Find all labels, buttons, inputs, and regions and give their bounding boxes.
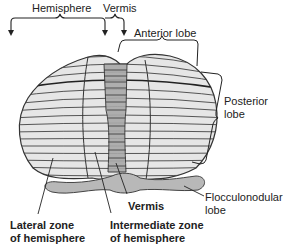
label-hemisphere: Hemisphere — [32, 2, 91, 15]
label-flocculonodular-line2: lobe — [205, 204, 226, 217]
label-flocculonodular-line1: Flocculonodular — [205, 191, 283, 204]
label-vermis-top: Vermis — [103, 2, 137, 15]
label-lateral-zone-line2: of hemisphere — [10, 232, 85, 245]
label-intermediate-zone-line2: of hemisphere — [110, 232, 185, 245]
label-vermis-bottom: Vermis — [128, 200, 164, 213]
label-posterior-lobe-line2: lobe — [224, 108, 245, 121]
label-anterior-lobe: Anterior lobe — [134, 27, 196, 40]
arrow-heads — [8, 30, 127, 36]
top-brackets — [11, 14, 124, 30]
label-posterior-lobe-line1: Posterior — [224, 95, 268, 108]
label-intermediate-zone-line1: Intermediate zone — [110, 219, 204, 232]
label-lateral-zone-line1: Lateral zone — [10, 219, 74, 232]
